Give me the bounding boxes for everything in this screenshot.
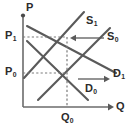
curve-label-s1-base: S (86, 14, 93, 26)
curve-label-s0: S0 (107, 31, 118, 42)
demand-shift-arrow-head-icon (104, 76, 110, 82)
curve-d0 (27, 41, 88, 100)
curve-label-s0-base: S (107, 30, 114, 42)
quantity-axis-label: Q (116, 101, 125, 112)
price-tick-p0-base: P (5, 65, 12, 77)
price-tick-p1-base: P (5, 29, 12, 41)
curve-label-s0-subscript: 0 (115, 36, 119, 43)
curve-label-d1-base: D (113, 67, 121, 79)
curve-label-d0-subscript: 0 (93, 88, 97, 95)
curve-label-s1: S1 (86, 15, 97, 26)
curve-label-d1: D1 (113, 68, 125, 79)
price-tick-p0-subscript: 0 (13, 71, 17, 78)
curve-label-d0-base: D (85, 82, 93, 94)
supply-shift-arrow-head-icon (70, 35, 76, 41)
curve-label-d1-subscript: 1 (121, 73, 125, 80)
price-axis-arrow-icon (21, 13, 25, 17)
price-tick-p1-subscript: 1 (13, 35, 17, 42)
price-axis-label: P (26, 2, 33, 13)
quantity-tick-q0-base: Q (61, 111, 70, 123)
price-tick-p0: P0 (5, 66, 16, 77)
curve-label-d0: D0 (85, 83, 97, 94)
quantity-tick-q0: Q0 (61, 112, 73, 123)
price-tick-p1: P1 (5, 30, 16, 41)
curve-label-s1-subscript: 1 (94, 20, 98, 27)
quantity-axis-arrow-icon (108, 104, 114, 111)
quantity-tick-q0-subscript: 0 (70, 117, 74, 124)
supply-demand-diagram: P Q P1 P0 Q0 S1 S0 D1 D0 (0, 0, 129, 132)
